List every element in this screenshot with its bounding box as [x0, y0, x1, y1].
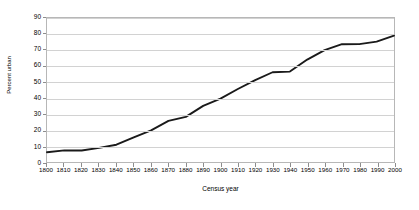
gridline-y-80: [47, 34, 394, 35]
y-axis-tick-labels: 0102030405060708090: [0, 0, 44, 210]
x-tick-mark-1990: [378, 163, 379, 167]
plot-area: [46, 17, 395, 163]
x-tick-label-1890: 1890: [196, 167, 210, 173]
x-tick-label-1820: 1820: [74, 167, 88, 173]
x-tick-mark-1900: [221, 163, 222, 167]
chart-container: Percent urban 0102030405060708090 180018…: [0, 0, 419, 210]
gridline-y-90: [47, 18, 394, 19]
x-tick-label-1960: 1960: [318, 167, 332, 173]
y-tick-label-70: 70: [34, 46, 41, 53]
y-tick-label-90: 90: [34, 14, 41, 21]
x-tick-label-1870: 1870: [161, 167, 175, 173]
x-tick-label-1850: 1850: [126, 167, 140, 173]
series-line-percent-urban: [47, 36, 394, 153]
x-tick-mark-1850: [133, 163, 134, 167]
gridline-y-30: [47, 115, 394, 116]
x-tick-label-1860: 1860: [144, 167, 158, 173]
y-tick-label-30: 30: [34, 111, 41, 118]
x-tick-mark-1830: [98, 163, 99, 167]
x-tick-mark-1820: [81, 163, 82, 167]
x-tick-label-1900: 1900: [214, 167, 228, 173]
series-line-chart: [47, 18, 394, 162]
x-tick-mark-1870: [168, 163, 169, 167]
y-tick-label-20: 20: [34, 127, 41, 134]
y-tick-label-50: 50: [34, 79, 41, 86]
x-tick-label-1880: 1880: [179, 167, 193, 173]
x-tick-mark-1860: [151, 163, 152, 167]
x-tick-mark-1920: [255, 163, 256, 167]
x-tick-mark-1950: [308, 163, 309, 167]
x-tick-label-1910: 1910: [231, 167, 245, 173]
gridline-y-70: [47, 50, 394, 51]
gridline-y-40: [47, 99, 394, 100]
y-tick-label-80: 80: [34, 30, 41, 37]
x-tick-label-1800: 1800: [39, 167, 53, 173]
x-tick-label-1990: 1990: [371, 167, 385, 173]
x-axis-tick-labels: 1800181018201830184018501860187018801890…: [46, 167, 395, 179]
x-tick-label-1970: 1970: [336, 167, 350, 173]
x-tick-mark-1800: [46, 163, 47, 167]
x-tick-mark-1810: [63, 163, 64, 167]
x-axis-title: Census year: [46, 186, 395, 193]
x-tick-mark-1940: [290, 163, 291, 167]
x-tick-mark-2000: [395, 163, 396, 167]
x-tick-mark-1910: [238, 163, 239, 167]
x-tick-mark-1840: [116, 163, 117, 167]
x-tick-label-1810: 1810: [57, 167, 71, 173]
gridline-y-60: [47, 66, 394, 67]
x-tick-label-1830: 1830: [91, 167, 105, 173]
gridline-y-10: [47, 147, 394, 148]
x-tick-mark-1960: [325, 163, 326, 167]
y-tick-label-10: 10: [34, 144, 41, 151]
x-tick-label-2000: 2000: [388, 167, 402, 173]
x-tick-mark-1880: [186, 163, 187, 167]
x-tick-mark-1930: [273, 163, 274, 167]
x-tick-mark-1890: [203, 163, 204, 167]
x-tick-label-1980: 1980: [353, 167, 367, 173]
x-tick-label-1840: 1840: [109, 167, 123, 173]
gridline-y-50: [47, 82, 394, 83]
gridline-y-20: [47, 131, 394, 132]
x-tick-mark-1970: [343, 163, 344, 167]
y-tick-label-40: 40: [34, 95, 41, 102]
y-tick-label-60: 60: [34, 62, 41, 69]
x-tick-label-1950: 1950: [301, 167, 315, 173]
x-tick-label-1930: 1930: [266, 167, 280, 173]
x-tick-label-1920: 1920: [249, 167, 263, 173]
x-tick-mark-1980: [360, 163, 361, 167]
x-tick-label-1940: 1940: [283, 167, 297, 173]
